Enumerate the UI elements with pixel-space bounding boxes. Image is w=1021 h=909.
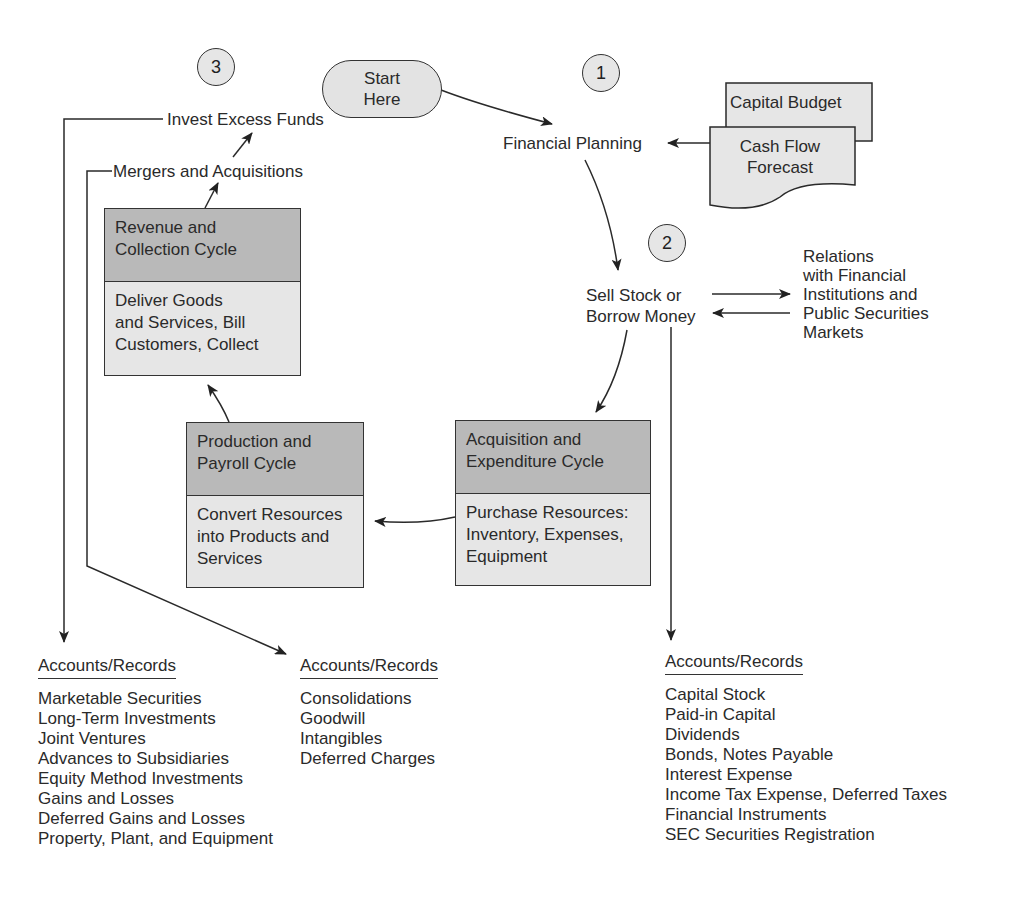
accounts-financing-title: Accounts/Records [665, 651, 803, 675]
accounts-mergers: Accounts/Records Consolidations Goodwill… [300, 655, 438, 769]
accounts-invest: Accounts/Records Marketable Securities L… [38, 655, 273, 849]
list-item: Dividends [665, 725, 947, 745]
list-item: Goodwill [300, 709, 438, 729]
list-item: Financial Instruments [665, 805, 947, 825]
step-1-marker: 1 [582, 54, 620, 92]
list-item: Deferred Charges [300, 749, 438, 769]
list-item: SEC Securities Registration [665, 825, 947, 845]
relations-label: Relations with Financial Institutions an… [803, 247, 929, 342]
list-item: Joint Ventures [38, 729, 273, 749]
list-item: Interest Expense [665, 765, 947, 785]
list-item: Advances to Subsidiaries [38, 749, 273, 769]
list-item: Bonds, Notes Payable [665, 745, 947, 765]
list-item: Intangibles [300, 729, 438, 749]
accounts-mergers-list: Consolidations Goodwill Intangibles Defe… [300, 689, 438, 769]
list-item: Gains and Losses [38, 789, 273, 809]
accounts-mergers-title: Accounts/Records [300, 655, 438, 679]
list-item: Capital Stock [665, 685, 947, 705]
list-item: Consolidations [300, 689, 438, 709]
list-item: Paid-in Capital [665, 705, 947, 725]
revenue-collection-cycle: Revenue and Collection Cycle Deliver Goo… [104, 208, 301, 376]
list-item: Marketable Securities [38, 689, 273, 709]
accounts-invest-list: Marketable Securities Long-Term Investme… [38, 689, 273, 849]
list-item: Equity Method Investments [38, 769, 273, 789]
start-terminal: Start Here [322, 60, 442, 118]
step-3-marker: 3 [197, 48, 235, 86]
list-item: Property, Plant, and Equipment [38, 829, 273, 849]
list-item: Deferred Gains and Losses [38, 809, 273, 829]
accounts-financing-list: Capital Stock Paid-in Capital Dividends … [665, 685, 947, 845]
step-2-marker: 2 [648, 224, 686, 262]
accounts-invest-title: Accounts/Records [38, 655, 176, 679]
mergers-acquisitions-label: Mergers and Acquisitions [113, 161, 303, 182]
accounts-financing: Accounts/Records Capital Stock Paid-in C… [665, 651, 947, 845]
financial-planning-label: Financial Planning [503, 133, 642, 154]
cash-flow-forecast-doc: Cash Flow Forecast [730, 136, 830, 178]
capital-budget-doc: Capital Budget [730, 92, 842, 113]
production-payroll-cycle: Production and Payroll Cycle Convert Res… [186, 422, 364, 588]
invest-excess-funds-label: Invest Excess Funds [167, 109, 324, 130]
list-item: Long-Term Investments [38, 709, 273, 729]
acquisition-expenditure-cycle: Acquisition and Expenditure Cycle Purcha… [455, 420, 651, 586]
list-item: Income Tax Expense, Deferred Taxes [665, 785, 947, 805]
sell-stock-label: Sell Stock or Borrow Money [586, 285, 696, 327]
